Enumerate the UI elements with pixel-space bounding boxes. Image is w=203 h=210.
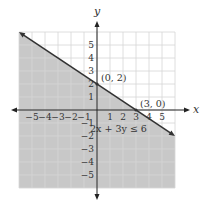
- y-tick-label: 5: [88, 40, 94, 50]
- point-label-0-2: (0, 2): [101, 72, 127, 83]
- y-tick-label: −4: [81, 157, 95, 167]
- x-axis-right-arrow-icon: [184, 108, 190, 113]
- x-tick-label: 2: [120, 112, 126, 122]
- x-tick-label: −2: [64, 112, 77, 122]
- x-tick-label: 1: [107, 112, 113, 122]
- point-marker: [134, 108, 137, 111]
- y-tick-label: 4: [88, 53, 94, 63]
- inequality-graph: −5−4−3−2−11234554321−1−2−3−4−5xy(0, 2)(3…: [0, 0, 203, 210]
- x-tick-label: 3: [133, 112, 139, 122]
- y-tick-label: 2: [88, 79, 94, 89]
- x-tick-label: −5: [25, 112, 39, 122]
- x-axis-left-arrow-icon: [11, 108, 17, 113]
- x-tick-label: 5: [159, 112, 165, 122]
- point-marker: [95, 82, 98, 85]
- y-tick-label: 3: [88, 66, 94, 76]
- x-tick-label: −3: [51, 112, 65, 122]
- y-tick-label: −3: [81, 144, 95, 154]
- y-axis-down-arrow-icon: [95, 194, 100, 200]
- point-label-3-0: (3, 0): [140, 98, 166, 109]
- x-tick-label: −4: [38, 112, 52, 122]
- x-tick-label: 4: [146, 112, 152, 122]
- y-axis-label: y: [93, 5, 101, 18]
- inequality-label: 2x + 3y ≤ 6: [90, 123, 147, 134]
- x-axis-label: x: [193, 103, 200, 116]
- y-tick-label: −5: [81, 170, 95, 180]
- y-tick-label: 1: [88, 92, 94, 102]
- y-axis-up-arrow-icon: [95, 21, 100, 27]
